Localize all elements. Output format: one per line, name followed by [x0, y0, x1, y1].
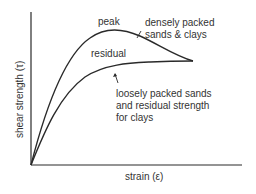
arrowhead-icon	[113, 73, 117, 77]
dense-label-line2: sands & clays	[145, 29, 207, 40]
dense-label-line1: densely packed	[145, 17, 215, 28]
loose-label-line3: for clays	[116, 112, 153, 123]
x-axis-label: strain (ε)	[125, 171, 163, 182]
y-axis-label: shear strength (τ)	[14, 61, 25, 138]
peak-label: peak	[98, 16, 121, 27]
loose-curve	[31, 61, 193, 165]
residual-label: residual	[91, 48, 126, 59]
loose-label-line2: and residual strength	[116, 100, 209, 111]
loose-label-line1: loosely packed sands	[116, 88, 212, 99]
shear-strain-diagram: peak residual densely packed sands & cla…	[0, 0, 256, 194]
